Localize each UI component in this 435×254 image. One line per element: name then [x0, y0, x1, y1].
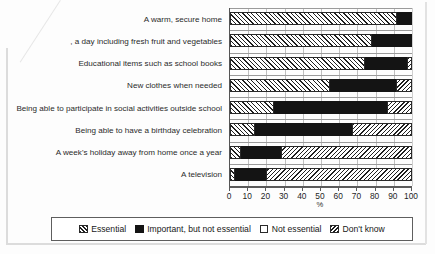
- x-tick: [320, 186, 321, 191]
- bar-segment-dontknow: [281, 146, 412, 159]
- category-label-row: A television: [0, 164, 226, 186]
- chart-legend: EssentialImportant, but not essentialNot…: [51, 217, 413, 241]
- category-label: A warm, secure home: [144, 15, 222, 24]
- bar-segment-important: [365, 57, 407, 70]
- bar-row: [230, 8, 412, 30]
- bar-segment-important: [235, 168, 266, 181]
- bar-series-group: [230, 8, 412, 186]
- category-label-row: Being able to participate in social acti…: [0, 97, 226, 119]
- category-label: Being able to participate in social acti…: [16, 104, 222, 113]
- legend-label: Essential: [91, 224, 126, 234]
- category-label: Being able to have a birthday celebratio…: [75, 126, 222, 135]
- category-label-row: New clothes when needed: [0, 75, 226, 97]
- category-label-row: Educational items such as school books: [0, 53, 226, 75]
- category-axis-labels: A warm, secure home, a day including fre…: [0, 8, 226, 186]
- legend-item[interactable]: Essential: [79, 224, 126, 234]
- bar-segment-important: [255, 123, 351, 136]
- bar-segment-essential: [230, 123, 255, 136]
- category-label-row: A week's holiday away from home once a y…: [0, 142, 226, 164]
- bar-segment-dontknow: [407, 57, 412, 70]
- bar-segment-dontknow: [266, 168, 412, 181]
- category-label-row: , a day including fresh fruit and vegeta…: [0, 30, 226, 52]
- bar-row: [230, 142, 412, 164]
- category-label: , a day including fresh fruit and vegeta…: [70, 37, 222, 46]
- legend-swatch-icon: [79, 225, 88, 234]
- x-tick: [284, 186, 285, 191]
- bar-segment-important: [372, 34, 412, 47]
- stacked-bar-chart: A warm, secure home, a day including fre…: [0, 0, 435, 210]
- x-tick: [302, 186, 303, 191]
- bar-segment-essential: [230, 101, 274, 114]
- x-axis-title: %: [229, 200, 411, 209]
- bar-row: [230, 119, 412, 141]
- category-label-row: Being able to have a birthday celebratio…: [0, 119, 226, 141]
- x-tick: [411, 186, 412, 191]
- chart-page: A warm, secure home, a day including fre…: [0, 0, 435, 254]
- bar-segment-dontknow: [387, 101, 412, 114]
- bar-segment-important: [274, 101, 387, 114]
- bar-segment-important: [241, 146, 281, 159]
- legend-item[interactable]: Important, but not essential: [135, 224, 251, 234]
- x-tick: [229, 186, 230, 191]
- bar-segment-essential: [230, 79, 330, 92]
- legend-label: Don't know: [342, 224, 384, 234]
- bar-row: [230, 97, 412, 119]
- category-label: A television: [181, 170, 222, 179]
- x-tick: [393, 186, 394, 191]
- bar-segment-dontknow: [352, 123, 412, 136]
- bar-segment-important: [330, 79, 396, 92]
- bar-segment-essential: [230, 146, 241, 159]
- legend-item[interactable]: Not essential: [260, 224, 322, 234]
- plot-area: [229, 8, 413, 186]
- legend-swatch-icon: [330, 225, 339, 234]
- category-label: Educational items such as school books: [78, 59, 222, 68]
- x-tick: [375, 186, 376, 191]
- bar-row: [230, 30, 412, 52]
- bar-segment-essential: [230, 57, 365, 70]
- x-tick: [247, 186, 248, 191]
- bar-segment-essential: [230, 12, 397, 25]
- legend-swatch-icon: [260, 225, 269, 234]
- legend-item[interactable]: Don't know: [330, 224, 384, 234]
- bar-row: [230, 53, 412, 75]
- category-label-row: A warm, secure home: [0, 8, 226, 30]
- legend-label: Not essential: [272, 224, 322, 234]
- x-tick: [338, 186, 339, 191]
- bar-segment-dontknow: [396, 79, 412, 92]
- category-label: A week's holiday away from home once a y…: [56, 148, 222, 157]
- bar-segment-essential: [230, 34, 372, 47]
- bar-row: [230, 75, 412, 97]
- legend-swatch-icon: [135, 225, 144, 234]
- x-tick: [265, 186, 266, 191]
- x-tick: [356, 186, 357, 191]
- scan-edge-bottom: [6, 243, 426, 245]
- category-label: New clothes when needed: [127, 81, 222, 90]
- bar-segment-important: [397, 12, 412, 25]
- bar-row: [230, 164, 412, 186]
- legend-label: Important, but not essential: [147, 224, 251, 234]
